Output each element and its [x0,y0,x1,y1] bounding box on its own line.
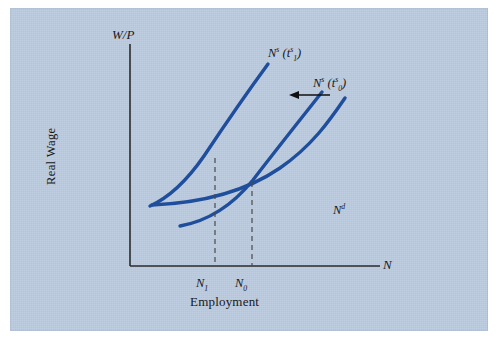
tick-label-n1: N1 [196,277,208,292]
x-axis-symbol: N [383,258,392,271]
curve-label-labor-supply-shifted: Ns (ts1) [268,46,301,62]
labor-demand-curve [152,98,345,205]
tick-n0-sub: 0 [243,284,247,293]
x-axis-title: Employment [190,295,259,308]
y-axis-symbol: W/P [112,28,134,41]
plot-area [0,0,498,339]
ns0-arg-sup: s [335,75,338,84]
tick-label-n0: N0 [235,277,247,292]
curve-label-labor-supply-original: Ns (ts0) [313,76,346,92]
y-axis-title: Real Wage [45,96,58,216]
ns1-sup: s [276,45,279,54]
labor-market-figure: W/P N Real Wage Employment N1 N0 Ns (ts1… [0,0,498,339]
ns1-arg-sub: 1 [293,54,297,63]
curve-label-labor-demand: Nd [333,203,345,217]
ns0-arg-sub: 0 [338,84,342,93]
nd-sup: d [341,202,345,211]
ns1-arg-sup: s [290,45,293,54]
ns0-sup: s [321,75,324,84]
tick-n1-sub: 1 [204,284,208,293]
